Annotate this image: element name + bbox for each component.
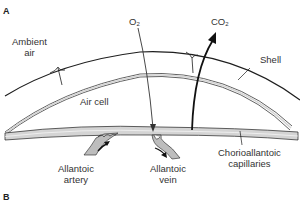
label-o2: O2 (129, 16, 140, 30)
panel-label-a: A (3, 6, 10, 16)
shell-outer-line (5, 52, 300, 100)
shell-membrane-inner (5, 76, 290, 135)
co2-diffusion-line (192, 40, 213, 130)
label-air-cell: Air cell (80, 96, 109, 107)
shell-leader-line (238, 68, 250, 80)
label-ambient-air: Ambient air (12, 36, 47, 58)
label-shell: Shell (260, 54, 281, 65)
o2-diffusion-line (138, 28, 153, 128)
panel-label-b: B (3, 192, 10, 202)
shell-membrane-outer (5, 73, 292, 132)
label-chorioallantoic-capillaries: Chorioallantoic capillaries (218, 147, 281, 169)
label-allantoic-artery: Allantoic artery (58, 163, 94, 185)
label-allantoic-vein: Allantoic vein (150, 163, 186, 185)
vein-flow-arrowhead (161, 152, 167, 158)
allantoic-artery-vessel (84, 133, 118, 155)
label-co2: CO2 (211, 16, 229, 30)
